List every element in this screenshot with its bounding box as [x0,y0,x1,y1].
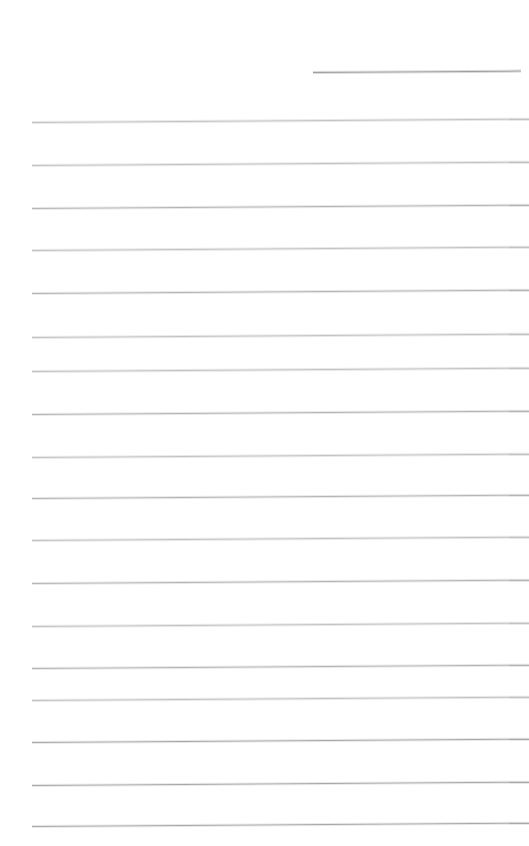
paper-surface [0,0,529,846]
header-rule [313,71,521,73]
scanned-page [0,0,529,846]
